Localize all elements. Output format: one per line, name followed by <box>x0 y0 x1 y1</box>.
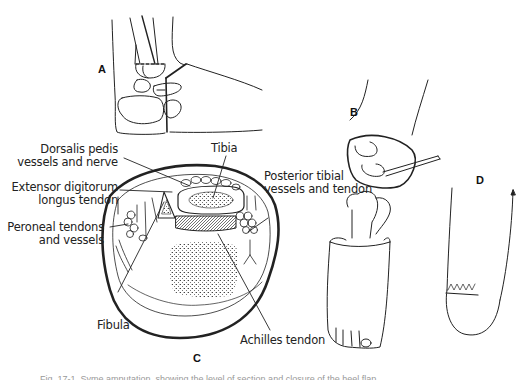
label-peroneal-tendons: Peroneal tendons and vessels <box>0 221 104 247</box>
label-tibia: Tibia <box>211 142 237 155</box>
figure-caption: Fig. 17-1. Syme amputation, showing the … <box>40 372 510 380</box>
panel-label-b: B <box>350 106 358 118</box>
panel-label-a: A <box>98 63 106 75</box>
panel-label-d: D <box>476 174 484 186</box>
panel-label-c: C <box>193 352 201 364</box>
panel-b-foot-drawing <box>327 80 440 348</box>
label-posterior-tibial: Posterior tibial vessels and tendon <box>264 170 372 196</box>
panel-d-stump-drawing <box>446 188 515 335</box>
label-extensor-digitorum: Extensor digitorum longus tendon <box>0 181 118 207</box>
label-line: longus tendon <box>0 194 118 207</box>
label-dorsalis-pedis: Dorsalis pedis vessels and nerve <box>0 143 118 169</box>
panel-c-cross-section <box>102 165 278 338</box>
panel-a-ankle-drawing <box>112 16 262 134</box>
label-achilles-tendon: Achilles tendon <box>240 334 325 347</box>
label-line: and vessels <box>0 234 104 247</box>
label-fibula: Fibula <box>97 319 130 332</box>
label-line: vessels and tendon <box>264 183 372 196</box>
label-line: vessels and nerve <box>0 156 118 169</box>
